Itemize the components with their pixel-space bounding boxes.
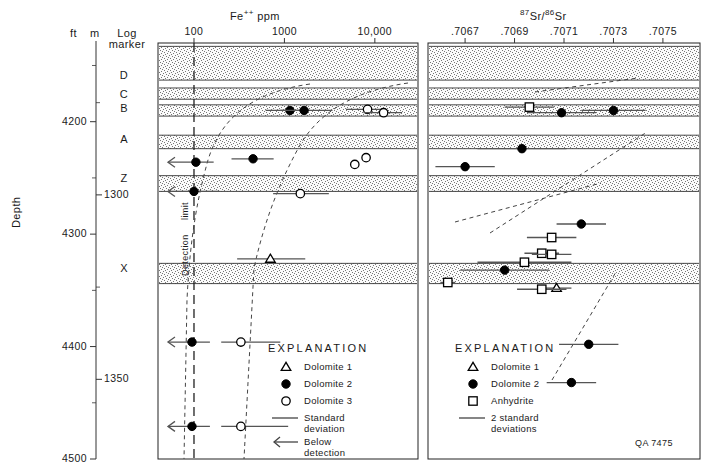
left-axis-title: Fe++ ppm (230, 8, 280, 22)
marker-dolomite-2 (300, 106, 308, 114)
strat-band (429, 46, 699, 80)
strat-band (429, 88, 699, 99)
marker-dolomite-2 (577, 220, 585, 228)
depth-tick-label-m: 1350 (104, 372, 129, 384)
marker-dolomite-2 (518, 144, 526, 152)
marker-anhydrite (520, 258, 528, 266)
left-axis-title-unit: ppm (257, 10, 280, 22)
depth-tick-label-ft: 4300 (0, 227, 87, 239)
strat-band (429, 176, 699, 192)
marker-dolomite-2 (192, 158, 200, 166)
left-legend-symbol (282, 397, 290, 405)
depth-unit-ft: ft (70, 27, 77, 39)
depth-axis-title: Depth (10, 197, 22, 228)
right-legend-entry-label: deviations (491, 423, 537, 434)
marker-dolomite-2 (188, 422, 196, 430)
left-legend-entry-label: Standard (304, 412, 345, 423)
right-legend-entry-label: 2 standard (491, 412, 539, 423)
marker-dolomite-2 (609, 106, 617, 114)
marker-dolomite-3 (351, 160, 359, 168)
log-marker-label: X (100, 262, 148, 274)
marker-dolomite-3 (237, 338, 245, 346)
right-legend-entry-label: Anhydrite (491, 395, 534, 406)
marker-dolomite-2 (567, 378, 575, 386)
marker-dolomite-3 (379, 109, 387, 117)
left-legend-entry-label: Dolomite 3 (304, 395, 352, 406)
right-legend-symbol (469, 397, 477, 405)
marker-dolomite-2 (500, 266, 508, 274)
detection-limit-label: limit (180, 202, 190, 220)
detection-limit-label: Detection (180, 234, 190, 276)
strat-band (429, 263, 699, 283)
right-axis-title-sup1: 87 (520, 8, 530, 17)
strat-band (159, 263, 417, 283)
marker-dolomite-2 (585, 340, 593, 348)
right-legend-entry-label: Dolomite 1 (491, 361, 539, 372)
left-axis-title-base: Fe (230, 10, 244, 22)
left-legend-entry-label: detection (304, 447, 345, 458)
log-marker-label: Z (100, 172, 148, 184)
marker-dolomite-2 (557, 109, 565, 117)
marker-anhydrite (547, 250, 555, 258)
right-legend-title: EXPLANATION (455, 342, 555, 354)
log-marker-label: D (100, 69, 148, 81)
right-axis-title-sup2: 86 (545, 8, 555, 17)
figure-root: 420043004400450013001350ftmDepthLogmarke… (0, 0, 707, 467)
left-legend-symbol (282, 380, 290, 388)
strat-band (159, 46, 417, 80)
strat-band (429, 135, 699, 148)
marker-anhydrite (444, 278, 452, 286)
left-legend-entry-label: Dolomite 1 (304, 361, 352, 372)
right-axis-title-base1: Sr (530, 10, 542, 22)
marker-anhydrite (525, 103, 533, 111)
strat-band (159, 135, 417, 148)
depth-tick-label-ft: 4500 (0, 452, 87, 464)
left-x-tick-label: 10,000 (345, 25, 405, 37)
right-legend-entry-label: Dolomite 2 (491, 378, 539, 389)
left-legend-entry-label: Below (304, 436, 331, 447)
marker-dolomite-3 (362, 153, 370, 161)
marker-anhydrite (538, 285, 546, 293)
left-legend-entry-label: Dolomite 2 (304, 378, 352, 389)
left-x-tick-label: 100 (164, 25, 224, 37)
right-x-tick-label: .7067 (440, 25, 490, 37)
log-marker-label: B (100, 102, 148, 114)
right-legend-symbol (469, 380, 477, 388)
right-x-tick-label: .7071 (539, 25, 589, 37)
marker-dolomite-2 (188, 338, 196, 346)
depth-tick-label-ft: 4400 (0, 340, 87, 352)
right-axis-title: 87Sr/86Sr (520, 8, 567, 22)
marker-dolomite-2 (249, 155, 257, 163)
marker-anhydrite (547, 233, 555, 241)
depth-unit-m: m (90, 27, 100, 39)
marker-anhydrite (538, 249, 546, 257)
right-x-tick-label: .7075 (638, 25, 688, 37)
depth-tick-label-ft: 4200 (0, 115, 87, 127)
marker-dolomite-3 (237, 422, 245, 430)
left-legend-title: EXPLANATION (268, 342, 368, 354)
right-x-tick-label: .7073 (588, 25, 638, 37)
left-axis-title-sup: ++ (244, 8, 254, 17)
right-x-tick-label: .7069 (490, 25, 540, 37)
left-legend-entry-label: deviation (304, 423, 345, 434)
right-axis-title-base2: Sr (555, 10, 567, 22)
log-marker-header: marker (100, 38, 154, 50)
left-x-tick-label: 1000 (254, 25, 314, 37)
marker-dolomite-2 (190, 187, 198, 195)
log-marker-label: A (100, 133, 148, 145)
depth-tick-label-m: 1300 (104, 188, 129, 200)
log-marker-label: C (100, 88, 148, 100)
marker-dolomite-3 (296, 189, 304, 197)
marker-dolomite-2 (461, 162, 469, 170)
figure-id-label: QA 7475 (635, 438, 673, 448)
